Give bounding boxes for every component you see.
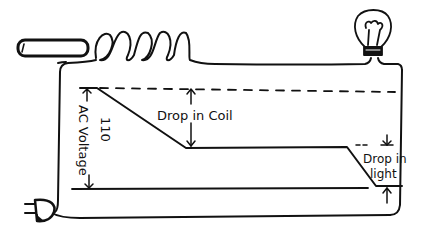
drop-in-coil-label: Drop in Coil: [157, 108, 233, 123]
baseline-line: [72, 188, 368, 189]
light-bulb-icon: [355, 10, 391, 55]
coil-icon: [58, 32, 215, 64]
bottom-wire: [52, 213, 390, 218]
drop-in-light-label-line2: light: [370, 167, 397, 181]
drop-in-light-label-line1: Drop in: [363, 152, 407, 166]
plug-icon: [25, 200, 54, 221]
top-wire-right: [378, 58, 402, 70]
circuit-diagram: AC Voltage 110 Drop in Coil Drop in ligh…: [0, 0, 435, 235]
voltage-profile-line: [80, 88, 402, 186]
voltage-value-label: 110: [98, 117, 113, 142]
top-wire: [215, 58, 371, 65]
cord-end-icon: [18, 40, 88, 56]
ac-voltage-label: AC Voltage: [76, 105, 91, 176]
reference-dashed-line: [100, 88, 395, 92]
